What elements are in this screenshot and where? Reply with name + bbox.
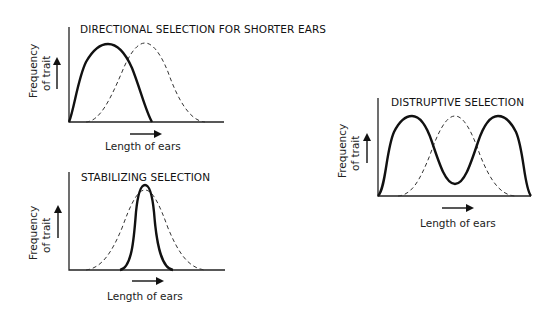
y-axis-label-line1: Frequency (27, 206, 39, 260)
panel-directional-selection: DIRECTIONAL SELECTION FOR SHORTER EARS F… (27, 23, 326, 152)
panel-title: DIRECTIONAL SELECTION FOR SHORTER EARS (80, 23, 326, 35)
x-axis-label: Length of ears (105, 140, 181, 152)
panel-stabilizing-selection: STABILIZING SELECTION Frequency of trait… (27, 171, 225, 302)
y-axis-label-line1: Frequency (336, 124, 348, 178)
panel-title: DISTRUPTIVE SELECTION (391, 96, 524, 108)
panel-disruptive-selection: DISTRUPTIVE SELECTION Frequency of trait… (336, 96, 531, 229)
x-axis-label: Length of ears (420, 217, 496, 229)
x-axis-label: Length of ears (107, 290, 183, 302)
y-axis-label-line1: Frequency (27, 44, 39, 98)
panel-title: STABILIZING SELECTION (81, 171, 210, 183)
original-distribution-curve (86, 43, 205, 122)
original-distribution-curve (86, 190, 205, 270)
selected-distribution-curve (378, 116, 531, 196)
axes (378, 98, 531, 196)
selected-distribution-curve (120, 185, 173, 270)
y-axis-label-line2: of trait (40, 218, 52, 253)
selected-distribution-curve (69, 44, 152, 122)
y-axis-label-line2: of trait (40, 56, 52, 91)
selection-diagrams: DIRECTIONAL SELECTION FOR SHORTER EARS F… (0, 0, 551, 312)
y-axis-label-line2: of trait (349, 136, 361, 171)
